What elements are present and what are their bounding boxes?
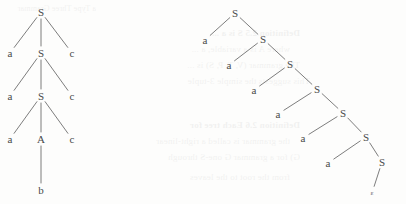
tree-edge bbox=[14, 18, 37, 48]
tree-node-terminal: c bbox=[70, 91, 75, 102]
tree-node-nonterminal: S bbox=[38, 48, 44, 59]
tree-node-nonterminal: S bbox=[38, 91, 44, 102]
tree-edge bbox=[370, 143, 378, 156]
tree-edge bbox=[322, 94, 338, 109]
tree-edge bbox=[14, 59, 37, 91]
tree-node-terminal: b bbox=[38, 185, 44, 196]
tree-node-terminal: a bbox=[227, 60, 232, 71]
tree-node-terminal: a bbox=[8, 134, 13, 145]
tree-edge bbox=[374, 169, 380, 187]
tree-node-nonterminal: S bbox=[38, 7, 44, 18]
tree-edge bbox=[295, 69, 312, 84]
tree-edge bbox=[309, 117, 337, 135]
tree-edge bbox=[210, 18, 230, 36]
tree-node-nonterminal: S bbox=[340, 108, 346, 119]
tree-node-terminal: a bbox=[252, 85, 257, 96]
tree-node-terminal: a bbox=[203, 35, 208, 46]
tree-node-terminal: c bbox=[70, 48, 75, 59]
tree-edge bbox=[240, 18, 258, 34]
tree-edge bbox=[45, 102, 68, 134]
tree-node-nonterminal: S bbox=[232, 8, 238, 19]
tree-edge bbox=[14, 102, 37, 134]
tree-node-nonterminal: S bbox=[314, 84, 320, 95]
tree-node-terminal: a bbox=[8, 91, 13, 102]
tree-node-nonterminal: S bbox=[287, 59, 293, 70]
tree-node-epsilon: ε bbox=[371, 190, 374, 197]
tree-edge bbox=[235, 43, 258, 61]
tree-node-terminal: a bbox=[8, 48, 13, 59]
tree-node-terminal: c bbox=[70, 134, 75, 145]
tree-edge bbox=[348, 118, 361, 132]
tree-node-terminal: a bbox=[301, 133, 306, 144]
tree-edge bbox=[260, 68, 285, 86]
figure-page: a Type Three Grammar Definition 2.5 S is… bbox=[0, 0, 406, 204]
tree-node-nonterminal: S bbox=[363, 132, 369, 143]
tree-node-nonterminal: S bbox=[260, 34, 266, 45]
tree-node-terminal: a bbox=[326, 158, 331, 169]
tree-edge bbox=[268, 44, 285, 59]
tree-node-terminal: a bbox=[276, 109, 281, 120]
tree-edge bbox=[45, 59, 68, 91]
tree-edge bbox=[334, 141, 360, 159]
tree-edge bbox=[45, 18, 68, 48]
tree-node-nonterminal: S bbox=[379, 157, 385, 168]
tree-node-nonterminal: A bbox=[37, 134, 45, 145]
parse-tree-edges bbox=[0, 0, 406, 204]
tree-edge bbox=[284, 93, 311, 110]
